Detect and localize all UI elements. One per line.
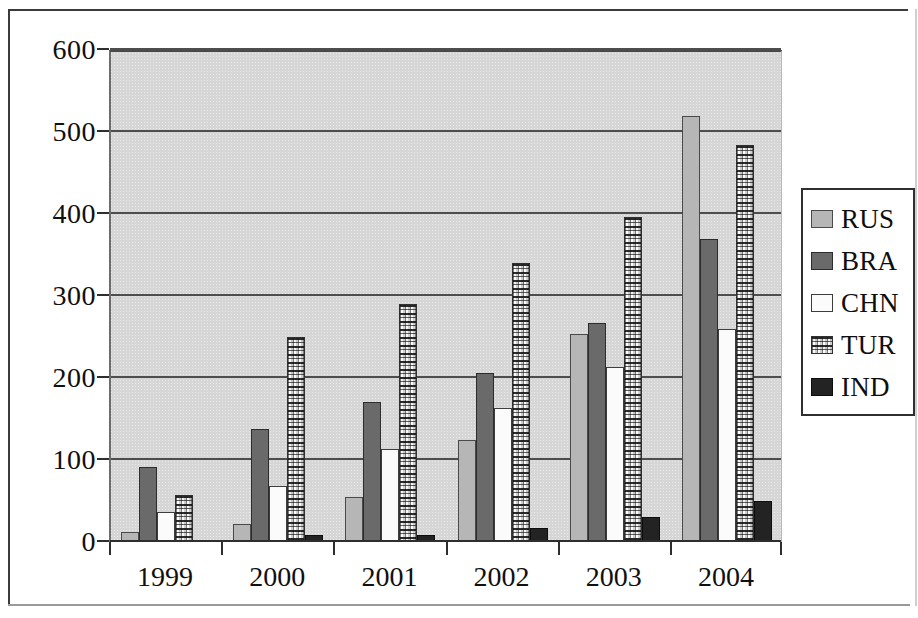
bar-chn-2001[interactable] (381, 449, 399, 542)
bar-ind-2003[interactable] (642, 517, 660, 542)
legend-swatch-rus-icon (811, 210, 833, 228)
bar-tur-2002[interactable] (512, 263, 530, 542)
plot-area (109, 50, 782, 542)
bar-group-2004 (682, 52, 772, 542)
y-tick-mark-400 (97, 212, 109, 214)
legend-label-ind: IND (841, 374, 890, 401)
x-tick-label-1999: 1999 (109, 560, 221, 594)
bar-chn-2004[interactable] (718, 329, 736, 542)
y-tick-label-300: 300 (53, 282, 97, 310)
y-tick-label-200: 200 (53, 364, 97, 392)
x-tick-mark-3 (446, 542, 448, 555)
y-tick-label-500: 500 (53, 118, 97, 146)
y-tick-label-400: 400 (53, 200, 97, 228)
y-tick-label-0: 0 (82, 528, 97, 556)
bar-ind-2004[interactable] (754, 501, 772, 542)
bar-rus-2003[interactable] (570, 334, 588, 542)
bar-group-2002 (458, 52, 548, 542)
bar-chn-1999[interactable] (157, 512, 175, 542)
x-tick-label-2003: 2003 (558, 560, 670, 594)
bar-tur-2001[interactable] (399, 304, 417, 542)
x-tick-label-2000: 2000 (221, 560, 333, 594)
bar-tur-2004[interactable] (736, 145, 754, 542)
bar-chn-2003[interactable] (606, 367, 624, 542)
x-tick-mark-0 (109, 542, 111, 555)
y-tick-label-100: 100 (53, 446, 97, 474)
bar-tur-1999[interactable] (175, 495, 193, 542)
y-tick-mark-100 (97, 458, 109, 460)
legend-swatch-chn-icon (811, 294, 833, 312)
legend-label-bra: BRA (841, 248, 897, 275)
y-tick-mark-0 (97, 540, 109, 542)
x-axis-labels: 199920002001200220032004 (109, 560, 799, 600)
bar-group-1999 (121, 52, 211, 542)
legend-label-tur: TUR (841, 332, 896, 359)
y-tick-mark-600 (97, 48, 109, 50)
legend-item-bra[interactable]: BRA (811, 240, 913, 282)
y-axis-line (109, 52, 111, 542)
x-tick-label-2001: 2001 (333, 560, 445, 594)
bar-group-2003 (570, 52, 660, 542)
bar-bra-2000[interactable] (251, 429, 269, 542)
y-axis: 0100200300400500600 (20, 50, 96, 542)
bar-bra-1999[interactable] (139, 467, 157, 542)
y-tick-mark-300 (97, 294, 109, 296)
bar-bra-2002[interactable] (476, 373, 494, 542)
bar-rus-2004[interactable] (682, 116, 700, 542)
x-tick-mark-4 (558, 542, 560, 555)
legend-item-tur[interactable]: TUR (811, 324, 913, 366)
x-axis-line (110, 540, 781, 542)
bar-group-2000 (233, 52, 323, 542)
y-tick-label-600: 600 (53, 36, 97, 64)
y-tick-mark-200 (97, 376, 109, 378)
bar-tur-2003[interactable] (624, 217, 642, 542)
legend-swatch-bra-icon (811, 252, 833, 270)
bar-bra-2004[interactable] (700, 239, 718, 542)
x-tick-label-2004: 2004 (670, 560, 782, 594)
page-border-bottom (8, 604, 910, 606)
bar-chn-2000[interactable] (269, 486, 287, 542)
legend-label-rus: RUS (841, 206, 894, 233)
gridline-600 (110, 48, 781, 50)
bar-rus-2001[interactable] (345, 497, 363, 542)
legend-swatch-tur-icon (811, 336, 833, 354)
legend-item-ind[interactable]: IND (811, 366, 913, 408)
x-tick-mark-6 (780, 542, 782, 555)
page-border-right (915, 9, 917, 606)
bar-bra-2003[interactable] (588, 323, 606, 542)
legend-swatch-ind-icon (811, 378, 833, 396)
bar-chn-2002[interactable] (494, 408, 512, 542)
x-axis-ticks (109, 542, 782, 556)
chart-legend: RUSBRACHNTURIND (801, 188, 915, 416)
legend-item-chn[interactable]: CHN (811, 282, 913, 324)
bar-rus-2002[interactable] (458, 440, 476, 542)
x-tick-label-2002: 2002 (446, 560, 558, 594)
x-tick-mark-1 (221, 542, 223, 555)
x-tick-mark-2 (333, 542, 335, 555)
bar-group-2001 (345, 52, 435, 542)
figure-root: 0100200300400500600 19992000200120022003… (0, 0, 918, 618)
bar-tur-2000[interactable] (287, 337, 305, 542)
legend-label-chn: CHN (841, 290, 899, 317)
y-tick-mark-500 (97, 130, 109, 132)
bar-bra-2001[interactable] (363, 402, 381, 542)
x-tick-mark-5 (670, 542, 672, 555)
legend-item-rus[interactable]: RUS (811, 198, 913, 240)
